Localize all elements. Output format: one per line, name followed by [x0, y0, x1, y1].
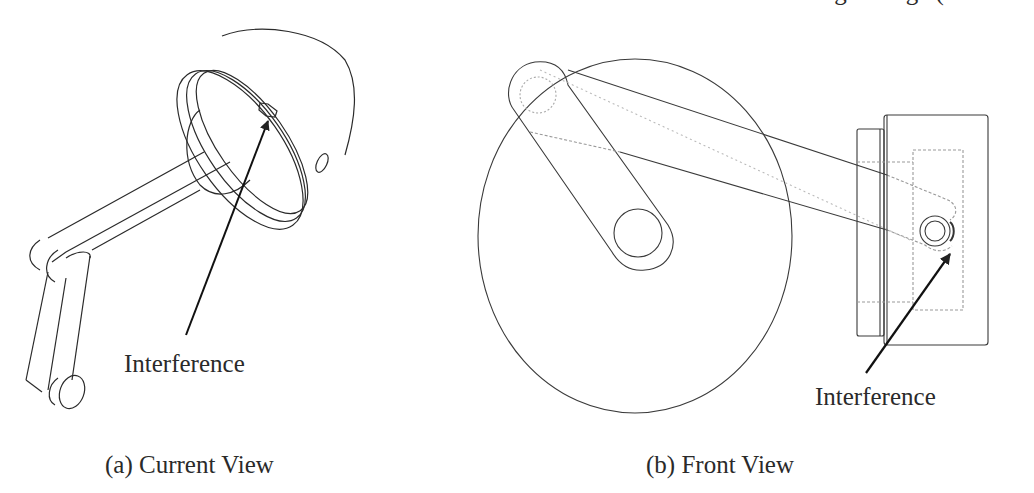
crank-pin-hidden [520, 77, 556, 113]
caption-a: (a) Current View [105, 451, 274, 479]
interference-label-b: Interference [815, 383, 936, 411]
wrist-pin-inner [925, 221, 945, 241]
crank-main-journal [614, 209, 662, 257]
panel-b-drawing [478, 59, 988, 413]
interference-region [950, 222, 954, 241]
interference-label-a: Interference [124, 350, 245, 378]
diagram-canvas [0, 0, 1034, 493]
caption-b: (b) Front View [646, 451, 794, 479]
arrow-icon [186, 121, 268, 335]
conrod-edge-top [568, 70, 887, 175]
arrow-icon [866, 254, 950, 373]
crank-disk [478, 59, 792, 413]
conrod-edge-bottom [620, 152, 887, 230]
pin-hole [313, 152, 331, 174]
